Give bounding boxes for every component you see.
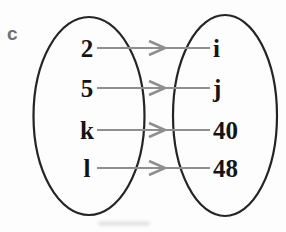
codomain-oval (173, 15, 277, 216)
domain-element: 5 (81, 76, 94, 101)
codomain-element: i (213, 36, 220, 61)
mapping-diagram: c 2 5 k l i j 40 48 (0, 0, 286, 232)
scan-smudge (98, 221, 150, 226)
mapping-arrow-5-to-j (97, 81, 210, 95)
mapping-arrow-2-to-i (97, 41, 210, 55)
mapping-arrows (97, 41, 210, 175)
mapping-arrow-k-to-40 (97, 123, 210, 137)
codomain-element: j (213, 76, 221, 101)
codomain-element: 40 (213, 118, 238, 143)
mapping-arrow-l-to-48 (97, 161, 210, 175)
domain-element: l (84, 156, 91, 181)
domain-element: 2 (81, 36, 94, 61)
diagram-svg (0, 0, 286, 232)
codomain-element: 48 (213, 156, 238, 181)
domain-element: k (80, 118, 94, 143)
